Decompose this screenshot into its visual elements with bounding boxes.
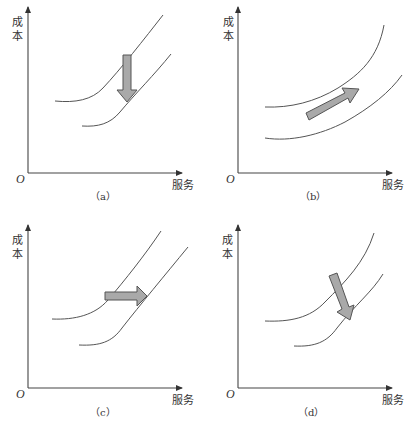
- y-axis-label: 成: [12, 234, 23, 247]
- panel-b: 成 本 O 服务 （b）: [223, 7, 404, 202]
- figure-canvas: 成 本 O 服务 （a） 成 本 O 服务 （b） 成 本 O 服务 （c）: [0, 0, 416, 427]
- y-axis-label: 本: [12, 29, 23, 43]
- panel-a: 成 本 O 服务 （a）: [12, 7, 194, 202]
- x-axis-label: 服务: [172, 394, 194, 407]
- y-axis-label: 成: [222, 234, 233, 247]
- origin-label: O: [226, 172, 235, 186]
- shift-arrow-down-right-icon: [329, 273, 354, 320]
- origin-label: O: [226, 387, 235, 401]
- panel-caption: （a）: [90, 191, 116, 202]
- origin-label: O: [16, 387, 25, 401]
- panel-d: 成 本 O 服务 （d）: [222, 225, 404, 418]
- panel-caption: （c）: [90, 407, 116, 418]
- upper-cost-curve: [265, 25, 384, 107]
- y-axis-label: 成: [12, 16, 23, 29]
- panel-caption: （b）: [300, 191, 326, 202]
- upper-cost-curve: [52, 231, 161, 319]
- panel-c: 成 本 O 服务 （c）: [12, 225, 194, 418]
- x-axis-label: 服务: [382, 179, 404, 192]
- upper-cost-curve: [265, 233, 374, 321]
- origin-label: O: [16, 172, 25, 186]
- x-axis-label: 服务: [172, 179, 194, 192]
- shift-arrow-down-icon: [117, 55, 137, 102]
- shift-arrow-up-right-icon: [306, 88, 359, 120]
- y-axis-label: 本: [223, 29, 234, 43]
- shift-arrow-right-icon: [105, 286, 147, 306]
- panel-caption: （d）: [298, 407, 324, 418]
- y-axis-label: 本: [12, 247, 23, 261]
- y-axis-label: 本: [222, 247, 233, 261]
- lower-cost-curve: [265, 75, 402, 139]
- y-axis-label: 成: [223, 16, 234, 29]
- x-axis-label: 服务: [382, 394, 404, 407]
- upper-cost-curve: [55, 15, 163, 102]
